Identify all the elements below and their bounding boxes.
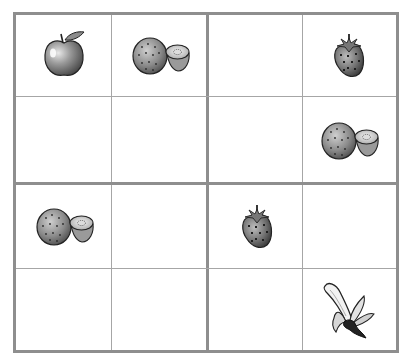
cell-r1-c2-empty[interactable] [210,97,303,184]
cell-r3-c1-empty[interactable] [112,269,208,349]
kiwi-icon [317,120,381,162]
cell-r0-c2-empty[interactable] [210,15,303,96]
strawberry-icon [331,32,367,80]
banana-icon [320,278,378,340]
cell-r0-c3-strawberry[interactable] [303,15,395,96]
kiwi-icon [128,35,192,77]
cell-r3-c0-empty[interactable] [16,269,111,349]
cell-r2-c2-strawberry[interactable] [210,185,303,268]
cell-r1-c3-kiwi[interactable] [303,97,395,184]
kiwi-icon [32,206,96,248]
cell-r2-c3-empty[interactable] [303,185,395,268]
cell-r3-c3-banana[interactable] [303,269,395,349]
sudoku-board [13,12,399,353]
cell-r2-c0-kiwi[interactable] [16,185,111,268]
cell-r3-c2-empty[interactable] [210,269,303,349]
cell-r1-c1-empty[interactable] [112,97,208,184]
cell-r0-c1-kiwi[interactable] [112,15,208,96]
apple-icon [38,31,90,81]
cell-r1-c0-empty[interactable] [16,97,111,184]
cell-r0-c0-apple[interactable] [16,15,111,96]
cell-r2-c1-empty[interactable] [112,185,208,268]
strawberry-icon [239,203,275,251]
